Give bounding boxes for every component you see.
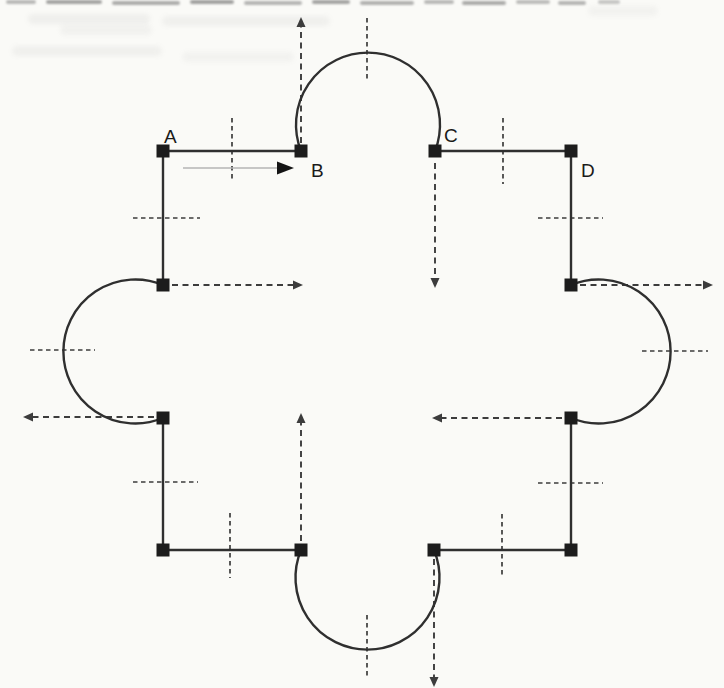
dashed-arrow-head [297, 413, 306, 423]
vertex-square [428, 544, 441, 557]
dashed-arrow-head [703, 281, 713, 290]
vertex-square [295, 145, 308, 158]
vertex-square [565, 279, 578, 292]
vertex-square [157, 279, 170, 292]
travel-direction-arrow-head [277, 162, 294, 175]
vertex-square [295, 544, 308, 557]
vertex-label-C: C [444, 125, 458, 146]
shape-arc [571, 280, 671, 424]
vertex-square [565, 544, 578, 557]
dashed-arrow-head [431, 278, 440, 288]
shape-arc [296, 53, 440, 151]
vertex-square [157, 412, 170, 425]
dashed-arrow-head [23, 413, 33, 422]
dashed-arrow-head [430, 677, 439, 687]
vertex-label-A: A [164, 126, 177, 147]
vertex-label-D: D [581, 160, 595, 181]
vertex-label-B: B [311, 160, 324, 181]
vertex-square [565, 145, 578, 158]
dashed-arrow-head [297, 17, 306, 27]
shape-arc [63, 280, 163, 424]
figure-svg: ABCD [0, 0, 724, 688]
vertex-square [429, 145, 442, 158]
vertex-square [157, 544, 170, 557]
dashed-arrow-head [432, 414, 442, 423]
dashed-arrow-head [293, 281, 303, 290]
vertex-square [565, 412, 578, 425]
scanned-page: ABCD [0, 0, 724, 688]
